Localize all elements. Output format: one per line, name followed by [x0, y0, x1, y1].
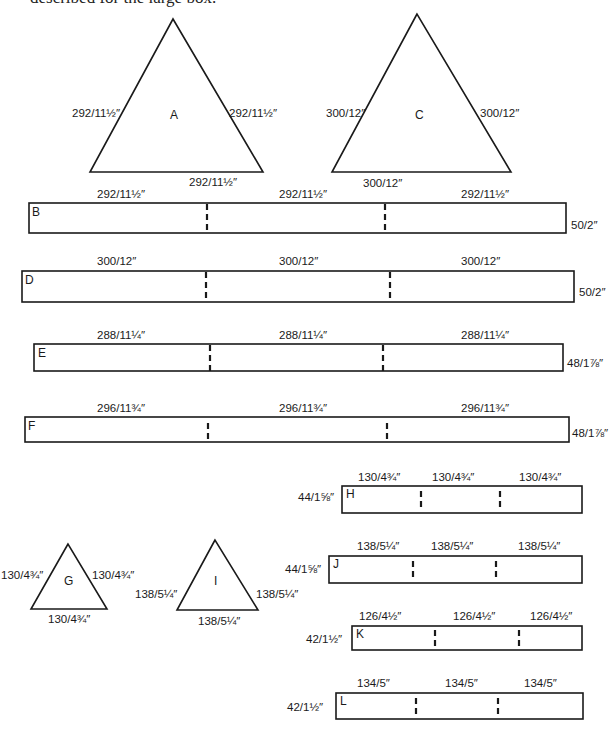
strip-h-shape — [342, 486, 582, 513]
strip-f-segment-1-label: 296/11¾″ — [97, 403, 145, 415]
strip-d-segment-1-label: 300/12″ — [97, 256, 136, 268]
strip-k-height-label: 42/1½″ — [306, 634, 342, 646]
triangle-c-shape — [332, 14, 511, 172]
strip-b-shape — [29, 203, 566, 233]
strip-b-segment-3-label: 292/11½″ — [461, 189, 509, 201]
strip-j-segment-2-label: 138/5¼″ — [431, 541, 473, 553]
strip-h-letter: H — [346, 488, 355, 500]
strip-h-segment-2-label: 130/4¾″ — [432, 472, 474, 484]
strip-j-segment-1-label: 138/5¼″ — [357, 541, 399, 553]
strip-d-segment-2-label: 300/12″ — [279, 256, 318, 268]
strip-h-segment-1-label: 130/4¾″ — [358, 472, 400, 484]
triangle-i-letter: I — [214, 575, 217, 587]
triangle-a-letter: A — [170, 109, 178, 121]
strip-h-segment-3-label: 130/4¾″ — [519, 472, 561, 484]
strip-l-height-label: 42/1½″ — [287, 702, 323, 714]
strip-e-shape — [34, 344, 563, 371]
triangle-c-base-label: 300/12″ — [363, 178, 402, 190]
triangle-i-left-label: 138/5¼″ — [135, 589, 177, 601]
triangle-a-base-label: 292/11½″ — [189, 177, 237, 189]
strip-e-height-label: 48/1⅞″ — [567, 358, 603, 370]
strip-f-segment-2-label: 296/11¾″ — [279, 403, 327, 415]
strip-k-segment-1-label: 126/4½″ — [359, 611, 401, 623]
strip-e-segment-1-label: 288/11¼″ — [97, 330, 145, 342]
strip-e-segment-3-label: 288/11¼″ — [461, 330, 509, 342]
strip-e-segment-2-label: 288/11¼″ — [279, 330, 327, 342]
triangle-g-left-label: 130/4¾″ — [1, 570, 43, 582]
strip-j-segment-3-label: 138/5¼″ — [518, 541, 560, 553]
strip-b-letter: B — [32, 206, 40, 218]
strip-k-segment-2-label: 126/4½″ — [453, 611, 495, 623]
triangle-i-base-label: 138/5¼″ — [198, 616, 240, 628]
strip-k-segment-3-label: 126/4½″ — [530, 611, 572, 623]
triangle-a-shape — [90, 19, 263, 172]
strip-l-segment-1-label: 134/5″ — [357, 678, 390, 690]
strip-f-segment-3-label: 296/11¾″ — [461, 403, 509, 415]
strip-l-shape — [336, 693, 583, 719]
strip-l-letter: L — [340, 695, 347, 707]
strip-j-letter: J — [333, 558, 339, 570]
triangle-c-left-label: 300/12″ — [326, 108, 365, 120]
strip-f-height-label: 48/1⅞″ — [572, 428, 608, 440]
strip-d-segment-3-label: 300/12″ — [461, 256, 500, 268]
strip-k-letter: K — [356, 628, 364, 640]
strip-j-height-label: 44/1⅝″ — [285, 564, 321, 576]
triangle-a-left-label: 292/11½″ — [72, 108, 120, 120]
strip-j-shape — [329, 556, 582, 583]
strip-k-shape — [352, 626, 582, 650]
strip-b-segment-2-label: 292/11½″ — [279, 189, 327, 201]
strip-b-segment-1-label: 292/11½″ — [97, 189, 145, 201]
strip-l-segment-2-label: 134/5″ — [445, 678, 478, 690]
strip-d-shape — [22, 271, 574, 302]
triangle-c-right-label: 300/12″ — [480, 108, 519, 120]
strip-d-height-label: 50/2″ — [579, 287, 605, 299]
triangle-i-shape — [177, 540, 258, 610]
strip-b-height-label: 50/2″ — [571, 220, 597, 232]
triangle-i-right-label: 138/5¼″ — [256, 589, 298, 601]
strip-e-letter: E — [38, 347, 46, 359]
triangle-a-right-label: 292/11½″ — [229, 108, 277, 120]
strip-h-height-label: 44/1⅝″ — [298, 492, 334, 504]
strip-f-shape — [25, 417, 569, 442]
triangle-g-right-label: 130/4¾″ — [92, 570, 134, 582]
strip-d-letter: D — [25, 274, 34, 286]
strip-f-letter: F — [28, 420, 35, 432]
triangle-g-base-label: 130/4¾″ — [48, 614, 90, 626]
triangle-g-letter: G — [64, 575, 73, 587]
triangle-c-letter: C — [415, 109, 424, 121]
strip-l-segment-3-label: 134/5″ — [524, 678, 557, 690]
